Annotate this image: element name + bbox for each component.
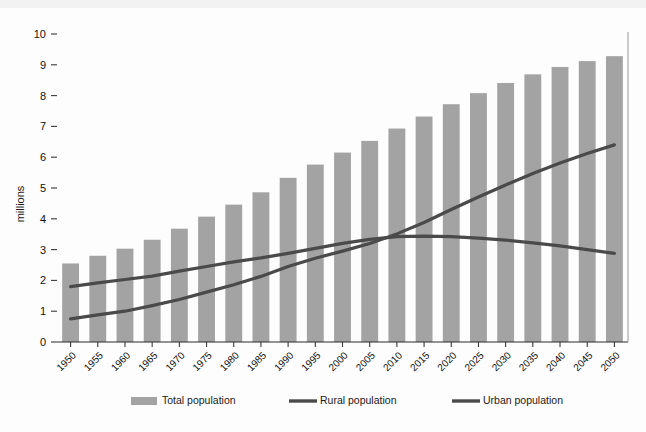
x-axis-tick-label-1955: 1955	[82, 349, 106, 373]
x-axis-tick-label-1980: 1980	[218, 349, 242, 373]
chart-legend: Total populationRural populationUrban po…	[131, 394, 563, 406]
y-axis-title: millions	[14, 185, 26, 222]
y-axis-tick-label: 5	[40, 182, 46, 194]
bar-total-population-2030	[497, 83, 514, 342]
bar-total-population-1955	[89, 256, 106, 342]
x-axis-tick-label-1960: 1960	[109, 349, 133, 373]
x-axis-tick-label-2025: 2025	[462, 349, 486, 373]
scan-artifact-band	[0, 0, 646, 8]
x-axis-tick-label-1965: 1965	[136, 349, 160, 373]
bar-total-population-1950	[62, 263, 79, 342]
bar-total-population-1965	[144, 240, 161, 342]
x-axis-tick-label-1975: 1975	[190, 349, 214, 373]
x-axis-tick-label-2010: 2010	[381, 349, 405, 373]
x-axis-tick-label-2020: 2020	[435, 349, 459, 373]
legend-item-urban-population[interactable]: Urban population	[452, 394, 563, 406]
bar-total-population-2050	[606, 56, 623, 342]
x-axis-tick-label-2030: 2030	[490, 349, 514, 373]
bar-total-population-1960	[117, 249, 134, 342]
legend-item-rural-population[interactable]: Rural population	[289, 394, 397, 406]
bar-total-population-1995	[307, 165, 324, 342]
x-axis-tick-label-2035: 2035	[517, 349, 541, 373]
y-axis-tick-label: 4	[40, 213, 46, 225]
bar-total-population-2025	[470, 93, 487, 342]
bar-total-population-1990	[280, 178, 297, 342]
population-chart: 012345678910 195019551960196519701975198…	[0, 0, 646, 432]
y-axis-tick-label: 2	[40, 274, 46, 286]
bar-total-population-2020	[443, 104, 460, 342]
legend-label: Rural population	[320, 394, 397, 406]
y-axis-tick-label: 3	[40, 244, 46, 256]
y-axis-title-text: millions	[14, 185, 26, 222]
bar-series-total-population	[62, 56, 623, 342]
bar-total-population-2015	[416, 117, 433, 342]
bar-total-population-1970	[171, 229, 188, 342]
x-axis-tick-label-1985: 1985	[245, 349, 269, 373]
legend-swatch-bar	[131, 397, 157, 405]
x-axis-tick-label-1950: 1950	[55, 349, 79, 373]
x-axis-tick-label-2015: 2015	[408, 349, 432, 373]
legend-label: Urban population	[483, 394, 563, 406]
y-axis-tick-label: 9	[40, 59, 46, 71]
bar-total-population-1975	[198, 217, 215, 342]
x-axis-tick-label-1990: 1990	[272, 349, 296, 373]
bar-total-population-2040	[552, 67, 569, 342]
y-axis-tick-label: 8	[40, 90, 46, 102]
bar-total-population-1980	[225, 205, 242, 342]
y-axis-tick-label: 1	[40, 305, 46, 317]
y-axis: 012345678910	[34, 28, 57, 348]
y-axis-tick-label: 10	[34, 28, 46, 40]
y-axis-tick-label: 7	[40, 120, 46, 132]
bar-total-population-2000	[334, 153, 351, 342]
legend-item-total-population[interactable]: Total population	[131, 394, 236, 406]
x-axis-tick-label-1970: 1970	[163, 349, 187, 373]
x-axis-tick-label-2000: 2000	[326, 349, 350, 373]
bar-total-population-1985	[253, 192, 270, 342]
legend-label: Total population	[162, 394, 236, 406]
x-axis-tick-label-2040: 2040	[544, 349, 568, 373]
bar-total-population-2045	[579, 61, 596, 342]
x-axis-tick-label-2045: 2045	[571, 349, 595, 373]
y-axis-tick-label: 6	[40, 151, 46, 163]
x-axis-tick-label-1995: 1995	[299, 349, 323, 373]
y-axis-tick-label: 0	[40, 336, 46, 348]
x-axis: 1950195519601965197019751980198519901995…	[55, 342, 623, 373]
x-axis-tick-label-2050: 2050	[598, 349, 622, 373]
x-axis-tick-label-2005: 2005	[354, 349, 378, 373]
chart-canvas: 012345678910 195019551960196519701975198…	[0, 0, 646, 432]
bar-total-population-2035	[524, 74, 541, 342]
